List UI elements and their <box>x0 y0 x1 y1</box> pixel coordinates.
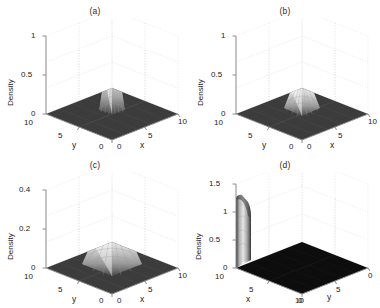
panel-c-zlabel: Density <box>6 233 15 260</box>
panel-b-plot: Density 1 0.5 0 10 5 0 0 5 10 y x <box>190 18 380 154</box>
panel-c-xtick-0: 0 <box>117 296 121 305</box>
panel-a: (a) <box>0 0 190 154</box>
panel-b-yname: y <box>262 140 266 150</box>
panel-b-xtick-10: 10 <box>368 117 377 126</box>
panel-c-ytick-10: 10 <box>24 272 33 281</box>
panel-d-ztick-2: 1 <box>223 207 227 216</box>
panel-c-plot: Density 0.4 0.2 0 10 5 0 0 5 10 y x <box>0 172 190 308</box>
panel-c-yname: y <box>72 294 76 304</box>
panel-d-xtick-10: 10 <box>215 272 224 281</box>
panel-a-xtick-10: 10 <box>178 117 187 126</box>
panel-a-surface <box>0 18 190 154</box>
panel-a-plot: Density 1 0.5 0 10 5 0 0 5 10 y x <box>0 18 190 154</box>
panel-c-ztick-2: 0.4 <box>19 185 30 194</box>
panel-a-ytick-0: 0 <box>99 142 103 151</box>
panel-a-zlabel: Density <box>6 79 15 106</box>
panel-b-ytick-0: 0 <box>289 142 293 151</box>
panel-d-xtick-5: 5 <box>249 285 253 294</box>
panel-b-ztick-2: 1 <box>221 31 225 40</box>
panel-c-title: (c) <box>0 160 190 170</box>
figure-container: (a) <box>0 0 380 308</box>
panel-a-ztick-0: 0 <box>31 109 35 118</box>
panel-b-ytick-5: 5 <box>248 131 252 140</box>
panel-c-xtick-5: 5 <box>148 285 152 294</box>
panel-c: (c) <box>0 154 190 308</box>
panel-b-zlabel: Density <box>196 79 205 106</box>
panel-d-ztick-0: 0 <box>223 263 227 272</box>
panel-d-yname: y <box>327 292 331 302</box>
panel-d-ytick-0: 0 <box>368 271 372 280</box>
panel-d-ytick-5: 5 <box>336 285 340 294</box>
panel-a-xtick-0: 0 <box>117 142 121 151</box>
panel-b-ytick-10: 10 <box>214 118 223 127</box>
panel-d-ztick-1: 0.5 <box>209 235 220 244</box>
panel-d-ytick-corner: 0 <box>298 296 302 305</box>
panel-c-xtick-10: 10 <box>178 271 187 280</box>
panel-a-xname: x <box>140 140 144 150</box>
panel-b: (b) <box>190 0 380 154</box>
panel-a-ztick-1: 0.5 <box>21 70 32 79</box>
panel-d-xname: x <box>246 294 250 304</box>
panel-d-title: (d) <box>190 160 380 170</box>
panel-b-xname: x <box>330 140 334 150</box>
panel-c-ztick-1: 0.2 <box>19 224 30 233</box>
panel-a-ytick-10: 10 <box>24 118 33 127</box>
panel-a-yname: y <box>72 140 76 150</box>
panel-c-ytick-0: 0 <box>99 296 103 305</box>
panel-c-ytick-5: 5 <box>58 285 62 294</box>
panel-c-ztick-0: 0 <box>31 263 35 272</box>
panel-d: (d) <box>190 154 380 308</box>
panel-a-title: (a) <box>0 6 190 16</box>
panel-a-ztick-2: 1 <box>31 31 35 40</box>
panel-b-ztick-0: 0 <box>221 109 225 118</box>
panel-a-xtick-5: 5 <box>148 131 152 140</box>
panel-b-surface <box>190 18 380 154</box>
panel-d-zlabel: Density <box>194 233 203 260</box>
panel-b-xtick-0: 0 <box>307 142 311 151</box>
panel-c-xname: x <box>140 294 144 304</box>
panel-b-xtick-5: 5 <box>338 131 342 140</box>
panel-a-ytick-5: 5 <box>58 131 62 140</box>
panel-b-ztick-1: 0.5 <box>211 70 222 79</box>
panel-d-ztick-3: 1.5 <box>209 179 220 188</box>
panel-d-plot: Density 1.5 1 0.5 0 10 5 10 0 5 0 x y <box>190 172 380 308</box>
panel-b-title: (b) <box>190 6 380 16</box>
